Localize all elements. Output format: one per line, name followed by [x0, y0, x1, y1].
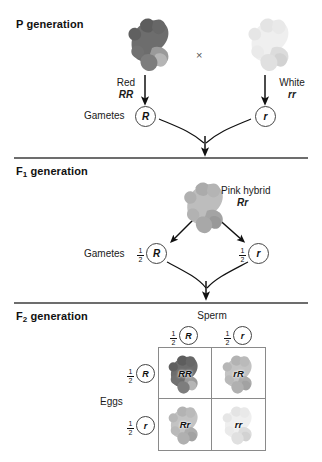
divider-f2: [14, 302, 308, 304]
eggs-row-2-circle-r: r: [136, 416, 155, 435]
snapdragon-flower-icon-white: [242, 14, 300, 74]
f1-gamete-right-fraction: 1 2: [238, 247, 247, 263]
sperm-col-1-circle-R: R: [179, 326, 198, 345]
eggs-label: Eggs: [100, 396, 123, 408]
sperm-col-1-fraction: 1 2: [169, 330, 178, 346]
eggs-row-1-fraction: 1 2: [126, 368, 135, 384]
eggs-row-2-fraction: 1 2: [126, 420, 135, 436]
f1-converge-right: [207, 262, 248, 288]
pink-hybrid-phenotype-label: Pink hybrid: [221, 185, 270, 197]
f1-converge-left: [167, 262, 206, 288]
punnett-genotype-Rr: Rr: [159, 419, 211, 430]
p-generation-title: P generation: [16, 18, 84, 30]
eggs-row-1-circle-R: R: [136, 364, 155, 383]
red-phenotype-label: Red: [108, 77, 144, 89]
white-phenotype-label: White: [272, 77, 312, 89]
snapdragon-flower-icon-red: [122, 14, 180, 74]
f1-generation-title: F1 generation: [16, 165, 88, 177]
converge-curve-left: [159, 119, 204, 143]
f1-gamete-left-fraction: 1 2: [136, 247, 145, 263]
f2-generation-title: F2 generation: [16, 310, 88, 322]
punnett-genotype-RR: RR: [159, 368, 211, 379]
punnett-genotype-rR: rR: [212, 368, 265, 379]
punnett-cell-RR: RR: [159, 348, 212, 399]
p-gamete-circle-R: R: [135, 106, 156, 127]
p-gametes-label: Gametes: [84, 110, 125, 122]
sperm-label: Sperm: [182, 310, 242, 322]
cross-symbol: ×: [196, 49, 202, 61]
genetics-diagram: P generation ×: [0, 0, 322, 462]
punnett-square: RR rR: [158, 347, 266, 451]
p-gamete-circle-r: r: [255, 106, 276, 127]
f1-gamete-circle-R: R: [146, 243, 167, 264]
f1-gametes-label: Gametes: [84, 248, 125, 260]
sperm-col-2-fraction: 1 2: [223, 330, 232, 346]
punnett-genotype-rr: rr: [212, 419, 265, 430]
red-genotype-label: RR: [108, 89, 144, 101]
pink-hybrid-genotype-label: Rr: [221, 197, 293, 209]
punnett-cell-rr: rr: [212, 399, 265, 450]
f1-gamete-circle-r: r: [248, 243, 269, 264]
white-genotype-label: rr: [272, 89, 312, 101]
converge-curve-right: [206, 119, 251, 143]
punnett-cell-Rr: Rr: [159, 399, 212, 450]
divider-f1: [14, 157, 308, 159]
punnett-cell-rR: rR: [212, 348, 265, 399]
sperm-col-2-circle-r: r: [233, 326, 252, 345]
